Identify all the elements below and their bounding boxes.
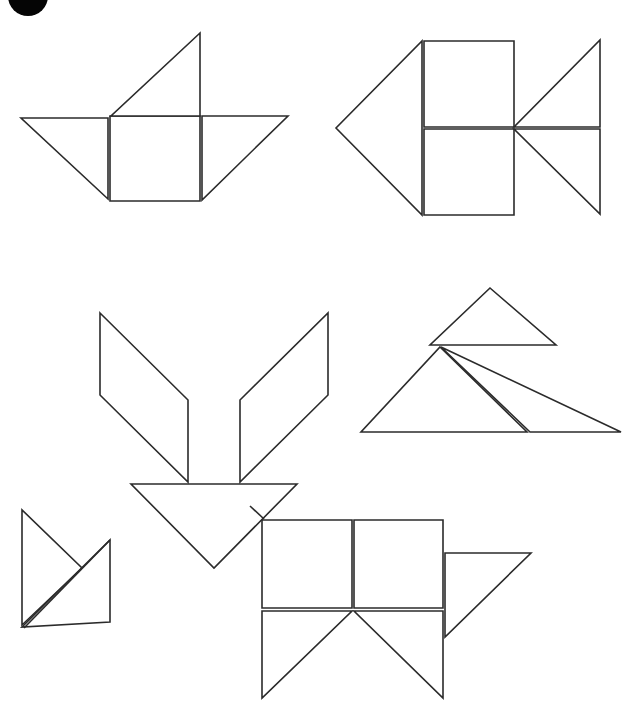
large-triangle-right-ear: [445, 553, 531, 637]
large-triangle-upper-right: [514, 40, 600, 127]
square-right: [354, 520, 443, 608]
figure-top-left: [21, 33, 288, 201]
large-triangle-left: [21, 118, 108, 199]
tangram-canvas: [0, 0, 639, 702]
parallelogram-left: [100, 313, 188, 482]
figure-top-right: [336, 40, 600, 215]
large-triangle-top: [111, 33, 200, 116]
square-upper: [424, 41, 514, 127]
figure-bottom-left: [22, 510, 110, 628]
figure-sheet: [0, 0, 639, 702]
large-triangle-down-left: [262, 611, 352, 698]
large-triangle-left: [336, 41, 422, 215]
center-square: [110, 116, 200, 201]
large-triangle-down-right: [354, 611, 443, 698]
parallelogram-right: [240, 313, 328, 482]
corner-dot-logo: [8, 0, 48, 16]
large-triangle-right: [202, 116, 288, 200]
large-triangle-lower-right: [514, 129, 600, 214]
figure-bottom-right: [250, 506, 531, 698]
medium-triangle-top: [430, 288, 556, 345]
figure-middle-right: [361, 288, 621, 432]
square-left: [262, 520, 352, 608]
square-lower: [424, 129, 514, 215]
